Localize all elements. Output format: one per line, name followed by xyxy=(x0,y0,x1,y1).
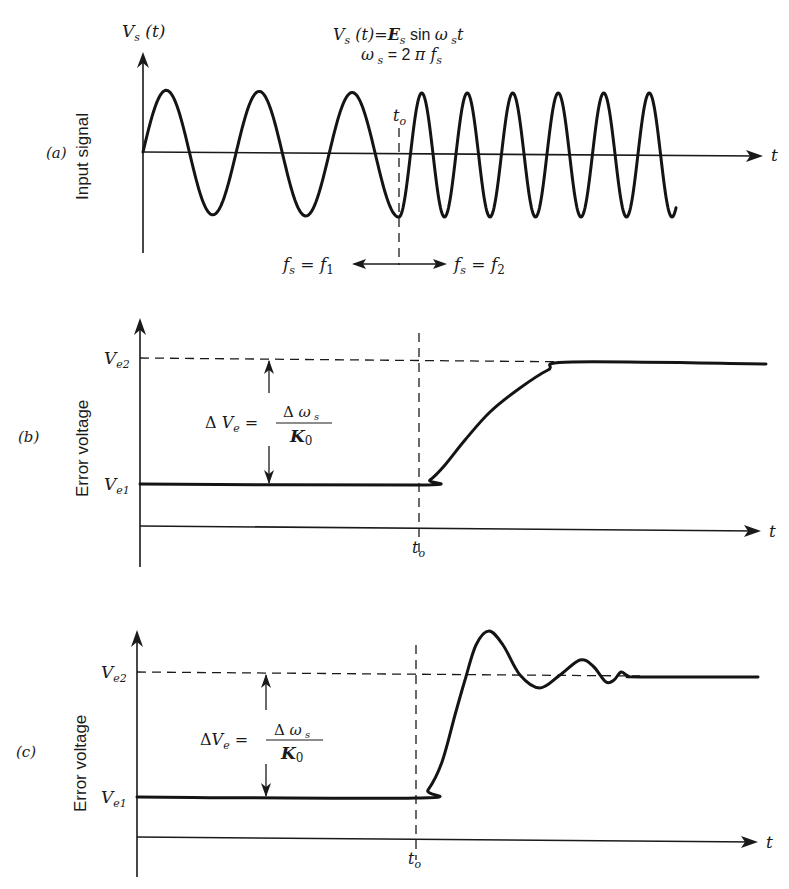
y-axis-title-error-voltage-b: Error voltage xyxy=(73,400,92,497)
y-axis-title-input-signal: Input signal xyxy=(73,113,92,200)
panel-b: (b) Error voltage t Ve2 Ve1 Δ Ve = Δ ω s… xyxy=(18,318,776,567)
error-voltage-curve-underdamped xyxy=(137,631,758,798)
y-axis-label-vs: Vs (t) xyxy=(122,21,165,44)
fs-equals-f2: fs = f2 xyxy=(452,254,505,277)
k0-denominator-c: K0 xyxy=(280,743,303,765)
equation-vs: Vs (t)=Es sin ω st xyxy=(333,25,464,47)
x-axis-label-t: t xyxy=(769,521,776,541)
x-axis-label-t: t xyxy=(766,832,773,852)
ve1-label-b: Ve1 xyxy=(104,474,130,497)
delta-ve-label-c: ΔVe = xyxy=(200,730,248,752)
x-axis-b xyxy=(140,526,757,531)
ve1-label-c: Ve1 xyxy=(101,787,127,810)
equation-omega: ω s = 2 π fs xyxy=(361,45,442,67)
delta-omega-numerator-c: Δ ω s xyxy=(274,721,310,740)
panel-c: (c) Error voltage t Ve2 Ve1 ΔVe = Δ ω s … xyxy=(16,630,773,877)
fs-equals-f1: fs = f1 xyxy=(281,254,334,277)
x-axis-c xyxy=(137,837,754,842)
panel-tag-a: (a) xyxy=(46,144,67,162)
y-axis-title-error-voltage-c: Error voltage xyxy=(71,715,90,812)
t-o-label-b: to xyxy=(412,538,425,560)
t-o-label-c: to xyxy=(408,849,421,871)
delta-omega-numerator-b: Δ ω s xyxy=(283,403,319,422)
x-axis-label-t: t xyxy=(771,145,778,165)
ve2-label-c: Ve2 xyxy=(101,662,127,685)
panel-tag-b: (b) xyxy=(18,428,39,446)
ve2-dashed-line-b xyxy=(140,358,585,362)
delta-ve-label-b: Δ Ve = xyxy=(205,413,258,435)
panel-a: (a) Input signal t Vs (t) Vs (t)=Es sin … xyxy=(46,21,778,277)
panel-tag-c: (c) xyxy=(16,743,36,761)
input-signal-waveform xyxy=(143,90,676,217)
t-o-label-a: to xyxy=(393,106,406,128)
k0-denominator-b: K0 xyxy=(289,426,312,448)
pll-response-figure: (a) Input signal t Vs (t) Vs (t)=Es sin … xyxy=(0,0,789,889)
ve2-label-b: Ve2 xyxy=(104,348,130,371)
